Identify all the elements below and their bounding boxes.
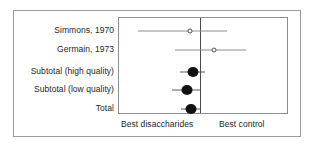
pooled-point-marker	[188, 67, 199, 77]
row-label: Total	[0, 103, 114, 113]
plot-area	[118, 17, 288, 114]
row-label: Subtotal (low quality)	[0, 84, 114, 94]
pooled-point-marker	[181, 85, 192, 95]
confidence-interval-line	[175, 50, 245, 51]
row-label: Subtotal (high quality)	[0, 66, 114, 76]
forest-plot-figure: Simmons, 1970Germain, 1973Subtotal (high…	[0, 0, 314, 147]
axis-caption-left: Best disaccharides	[121, 119, 193, 129]
axis-caption-right: Best control	[219, 119, 264, 129]
pooled-point-marker	[185, 104, 196, 114]
row-label: Simmons, 1970	[0, 25, 114, 35]
study-point-marker	[187, 29, 192, 34]
line-of-no-effect	[200, 18, 201, 113]
confidence-interval-line	[138, 31, 227, 32]
study-point-marker	[212, 48, 217, 53]
row-label: Germain, 1973	[0, 44, 114, 54]
